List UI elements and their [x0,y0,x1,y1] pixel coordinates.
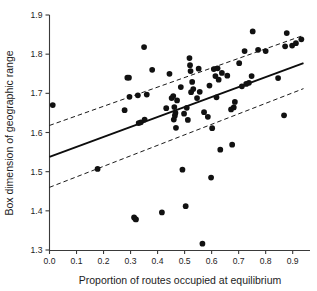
scatter-point [196,66,202,72]
x-tick-label: 0.9 [287,256,299,266]
scatter-point [159,210,165,216]
scatter-point [190,86,196,92]
scatter-point [215,65,221,71]
x-tick-label: 0.3 [125,256,137,266]
scatter-point [185,117,191,123]
scatter-point [282,43,288,49]
scatter-point [122,107,128,113]
scatter-point [201,109,207,115]
scatter-point [298,36,304,42]
x-tick-label: 0.2 [98,256,110,266]
scatter-point [250,29,256,35]
y-axis-title: Box dimension of geographic range [3,50,15,215]
scatter-point [293,40,299,46]
scatter-point [205,114,211,120]
scatter-point [242,48,248,54]
scatter-point [173,110,179,116]
scatter-point [163,105,169,111]
regression-line [50,63,304,157]
x-tick-label: 0.4 [152,256,164,266]
scatter-plot-figure: 1.31.41.51.61.71.81.9 0.00.10.20.30.40.5… [0,0,317,291]
x-axis-title: Proportion of routes occupied at equilib… [79,274,282,286]
scatter-point [187,62,193,68]
scatter-point [200,241,206,247]
x-tick-label: 0.1 [71,256,83,266]
scatter-point [231,105,237,111]
scatter-point [183,203,189,209]
scatter-point [141,44,147,50]
regression-fit-line [50,63,304,157]
scatter-point [170,93,176,99]
y-tick-label: 1.7 [31,88,43,98]
scatter-point [133,217,139,223]
y-tick-label: 1.5 [31,167,43,177]
y-tick-label: 1.3 [31,245,43,255]
scatter-point [142,117,148,123]
x-tick-label: 0.6 [206,256,218,266]
scatter-point [181,111,187,117]
scatter-point [167,71,173,77]
scatter-point [208,175,214,181]
scatter-point [207,83,213,89]
scatter-point [217,147,223,153]
scatter-point [184,105,190,111]
scatter-point [149,67,155,73]
scatter-point [188,68,194,74]
y-tick-label: 1.8 [31,49,43,59]
scatter-point [281,112,287,118]
y-tick-label: 1.4 [31,206,43,216]
scatter-point [135,92,141,98]
scatter-point [249,73,255,79]
scatter-point [214,94,220,100]
scatter-point [236,60,242,66]
scatter-point [197,89,203,95]
x-tick-label: 0.0 [44,256,56,266]
scatter-point [174,98,180,104]
scatter-point [275,75,281,81]
plot-axes [50,15,311,251]
x-axis-ticks: 0.00.10.20.30.40.50.60.70.80.9 [44,250,299,266]
scatter-point [224,73,230,79]
y-tick-label: 1.9 [31,10,43,20]
scatter-point [229,142,235,148]
y-axis-ticks: 1.31.41.51.61.71.81.9 [31,10,50,255]
scatter-point [171,104,177,110]
scatter-point [178,84,184,90]
scatter-point [209,125,215,131]
scatter-point [263,48,269,54]
scatter-point [284,30,290,36]
scatter-point [173,125,179,131]
scatter-point [180,167,186,173]
plot-canvas: 1.31.41.51.61.71.81.9 0.00.10.20.30.40.5… [0,0,317,291]
scatter-point [189,79,195,85]
x-tick-label: 0.8 [260,256,272,266]
x-tick-label: 0.7 [233,256,245,266]
scatter-point [95,166,101,172]
scatter-point [144,92,150,98]
scatter-point [194,95,200,101]
scatter-point [126,75,132,81]
x-tick-label: 0.5 [179,256,191,266]
y-tick-label: 1.6 [31,128,43,138]
scatter-point [232,99,238,105]
scatter-point [50,102,56,108]
scatter-point [187,55,193,61]
scatter-point [127,94,133,100]
lower-confidence-band [50,89,304,188]
scatter-point [246,80,252,86]
scatter-point [255,47,261,53]
scatter-point [219,70,225,76]
scatter-point [216,77,222,83]
